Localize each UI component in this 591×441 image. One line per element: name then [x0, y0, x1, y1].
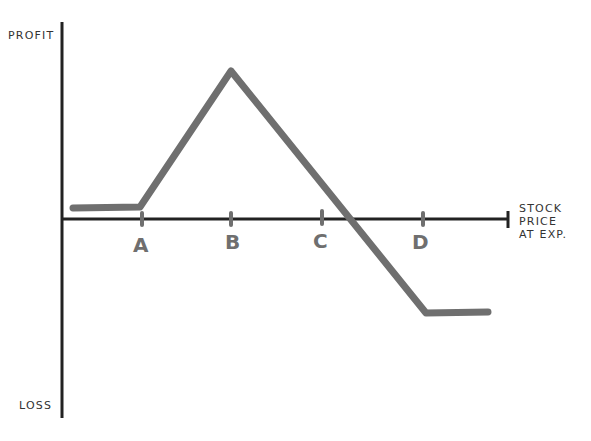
- tick-label-b: B: [225, 230, 240, 254]
- tick-label-a: A: [133, 233, 149, 257]
- tick-label-c: C: [313, 229, 328, 253]
- payoff-chart: A B C D: [0, 0, 591, 441]
- payoff-curve: [73, 71, 488, 313]
- tick-label-d: D: [412, 230, 429, 254]
